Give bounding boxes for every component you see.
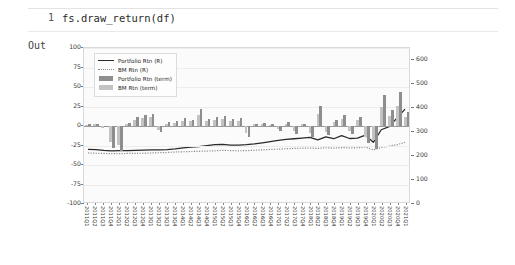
gridline [84, 165, 409, 166]
y-axis-right-tick-label: 600 [416, 56, 442, 62]
gridline [84, 146, 409, 147]
x-axis-tick-label: 2018Q3 [323, 206, 328, 227]
x-axis-tick-label: 2014Q1 [180, 206, 185, 227]
cell-divider-top [28, 8, 498, 9]
y-axis-right-tick [411, 155, 414, 156]
y-axis-left-tick-label: -100 [57, 200, 81, 206]
x-axis-tick [231, 203, 232, 205]
bar-port-2015Q2 [224, 116, 227, 126]
x-axis-tick [207, 203, 208, 205]
y-axis-left-tick-label: -25 [57, 142, 81, 148]
y-axis-left-tick-label: 0 [57, 122, 81, 128]
x-axis-tick-label: 2011Q4 [108, 206, 113, 227]
x-axis-tick-label: 2017Q1 [276, 206, 281, 227]
x-axis-tick-label: 2015Q4 [236, 206, 241, 227]
bar-port-2019Q2 [351, 126, 354, 134]
bar-port-2018Q4 [335, 120, 338, 126]
line-bm-rtn [88, 142, 405, 153]
x-axis-tick [215, 203, 216, 205]
x-axis-tick [270, 203, 271, 205]
x-axis-tick-label: 2018Q1 [308, 206, 313, 227]
bar-port-2015Q1 [216, 117, 219, 126]
x-axis-tick-label: 2014Q3 [196, 206, 201, 227]
bar-port-2016Q1 [248, 126, 251, 137]
x-axis-tick-label: 2020Q1 [371, 206, 376, 227]
bar-port-2018Q3 [327, 126, 330, 135]
x-axis-tick [398, 203, 399, 205]
x-axis-tick-label: 2018Q2 [315, 206, 320, 227]
bar-port-2011Q4 [112, 126, 115, 148]
x-axis-tick-label: 2014Q4 [204, 206, 209, 227]
x-axis-tick [87, 203, 88, 205]
x-axis-tick-label: 2011Q3 [100, 206, 105, 227]
x-axis-tick-label: 2019Q2 [347, 206, 352, 227]
y-axis-left: 1007550250-25-50-75-100 [56, 40, 81, 210]
bar-port-2012Q4 [144, 115, 147, 126]
bar-port-2014Q4 [208, 119, 211, 126]
bar-port-2019Q4 [367, 126, 370, 143]
x-axis-tick-label: 2021Q1 [403, 206, 408, 227]
x-axis-tick-label: 2013Q1 [148, 206, 153, 227]
x-axis-tick [239, 203, 240, 205]
gridline [84, 185, 409, 186]
bar-port-2011Q2 [96, 124, 99, 126]
x-axis-tick [143, 203, 144, 205]
x-axis-tick-label: 2016Q3 [260, 206, 265, 227]
x-axis-tick [159, 203, 160, 205]
x-axis-tick [103, 203, 104, 205]
x-axis-tick [111, 203, 112, 205]
legend-key-bar-light-icon [98, 84, 114, 92]
x-axis-tick [254, 203, 255, 205]
x-axis-tick-label: 2020Q2 [379, 206, 384, 227]
x-axis-tick-label: 2019Q1 [339, 206, 344, 227]
x-axis-tick-label: 2014Q2 [188, 206, 193, 227]
x-axis-tick-label: 2020Q3 [387, 206, 392, 227]
bar-port-2012Q1 [120, 126, 123, 151]
x-axis-tick [302, 203, 303, 205]
x-axis-tick-label: 2017Q2 [284, 206, 289, 227]
x-axis-tick [318, 203, 319, 205]
gridline [84, 48, 409, 49]
x-axis-tick [191, 203, 192, 205]
x-axis-tick [294, 203, 295, 205]
bar-port-2019Q1 [343, 115, 346, 126]
x-axis-tick [262, 203, 263, 205]
x-axis-tick [286, 203, 287, 205]
bar-port-2014Q1 [184, 118, 187, 126]
y-axis-right-tick [411, 131, 414, 132]
bar-port-2017Q2 [287, 122, 290, 126]
legend-item-portfolio-rtn-term: Portfolio Rtn (term) [98, 75, 172, 83]
x-axis-tick [390, 203, 391, 205]
y-axis-left-tick-label: 25 [57, 103, 81, 109]
y-axis-left-tick-label: -50 [57, 161, 81, 167]
x-axis-tick-label: 2015Q1 [212, 206, 217, 227]
code-cell-source[interactable]: fs.draw_return(df) [62, 12, 176, 24]
x-axis-tick-label: 2016Q1 [244, 206, 249, 227]
bar-port-2012Q2 [128, 123, 131, 126]
x-axis-tick-label: 2013Q4 [172, 206, 177, 227]
x-axis-tick [175, 203, 176, 205]
y-axis-right-tick-label: 0 [416, 200, 442, 206]
legend-label: BM Rtn (R) [118, 67, 148, 73]
x-axis-tick-label: 2015Q3 [228, 206, 233, 227]
bar-port-2013Q1 [152, 114, 155, 126]
cell-divider-bottom [28, 31, 498, 32]
x-axis-tick-label: 2012Q1 [116, 206, 121, 227]
bar-port-2021Q1 [407, 112, 410, 126]
y-axis-right-tick [411, 179, 414, 180]
x-axis-tick-label: 2017Q3 [292, 206, 297, 227]
bar-port-2018Q2 [319, 106, 322, 126]
legend-key-bar-dark-icon [98, 75, 114, 83]
y-axis-right-tick-label: 200 [416, 152, 442, 158]
x-axis-tick [183, 203, 184, 205]
bar-port-2020Q3 [391, 110, 394, 126]
bar-port-2016Q3 [263, 123, 266, 126]
x-axis-tick-label: 2012Q2 [124, 206, 129, 227]
x-axis: 2011Q12011Q22011Q32011Q42012Q12012Q22012… [83, 203, 410, 243]
bar-port-2020Q1 [375, 126, 378, 149]
legend-key-solid-line-icon [98, 57, 114, 65]
y-axis-right-tick [411, 203, 414, 204]
x-axis-tick-label: 2011Q1 [84, 206, 89, 227]
legend-label: Portfolio Rtn (term) [118, 76, 172, 82]
bar-port-2016Q4 [271, 124, 274, 126]
